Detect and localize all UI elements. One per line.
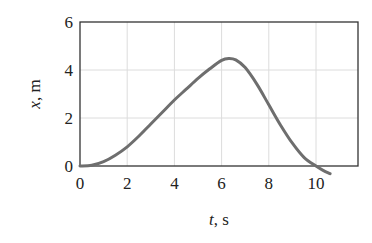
grid-lines xyxy=(80,22,358,166)
chart: 0246810 0246 t, s x, m xyxy=(0,0,372,243)
y-tick-label: 2 xyxy=(65,109,74,128)
x-tick-label: 6 xyxy=(217,174,226,193)
x-tick-label: 2 xyxy=(123,174,132,193)
x-axis-label: t, s xyxy=(209,210,229,229)
x-tick-label: 8 xyxy=(265,174,274,193)
y-tick-label: 6 xyxy=(65,13,74,32)
y-tick-label: 0 xyxy=(65,157,74,176)
x-tick-label: 10 xyxy=(308,174,325,193)
y-tick-labels: 0246 xyxy=(65,13,74,176)
x-tick-label: 4 xyxy=(170,174,179,193)
y-axis-label: x, m xyxy=(25,79,44,109)
y-tick-label: 4 xyxy=(65,61,74,80)
data-line xyxy=(80,58,330,173)
x-tick-label: 0 xyxy=(76,174,85,193)
x-tick-labels: 0246810 xyxy=(76,174,325,193)
